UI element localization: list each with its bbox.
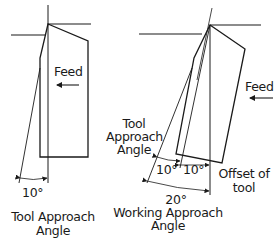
left-angle-dimension-arc — [20, 178, 47, 180]
right-angle-left-label: 10° — [156, 163, 177, 177]
left-caption-line1: Tool Approach — [8, 210, 98, 224]
right-angle-right-label: 10° — [183, 163, 204, 177]
right-offset-label-line1: Offset of — [214, 167, 274, 181]
right-offset-label-line2: tool — [214, 181, 274, 195]
right-tool-angle-dimension-arc — [157, 157, 180, 161]
left-approach-angle-line — [19, 68, 40, 183]
right-tool-angle-label-line3: Angle — [106, 143, 162, 157]
right-tool-centerline — [180, 25, 210, 168]
left-caption-line2: Angle — [8, 224, 98, 238]
left-feed-label: Feed — [54, 65, 83, 79]
left-tool-body — [40, 24, 88, 157]
left-angle-label: 10° — [22, 186, 43, 200]
right-feed-label: Feed — [245, 80, 274, 94]
right-working-angle-dimension-arc — [147, 181, 209, 191]
left-tool-diagram — [11, 5, 91, 183]
right-caption-line2: Angle — [112, 219, 224, 233]
